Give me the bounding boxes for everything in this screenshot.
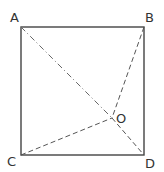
segment-ao	[21, 27, 112, 118]
segment-co	[21, 118, 112, 155]
label-d: D	[145, 156, 155, 171]
geometry-diagram: A B C D O	[0, 0, 164, 172]
square	[21, 27, 144, 155]
label-c: C	[7, 154, 16, 169]
segment-bo	[112, 27, 144, 118]
label-b: B	[145, 10, 154, 25]
label-o: O	[116, 111, 126, 126]
label-a: A	[10, 10, 19, 25]
